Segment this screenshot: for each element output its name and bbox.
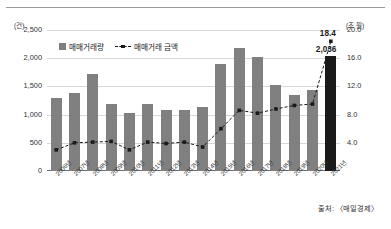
data-label-line-value: 18.4 <box>320 29 336 38</box>
line-marker-2006년 <box>54 148 58 152</box>
legend-swatch-line-icon <box>115 43 131 50</box>
legend: 매매거래량 매매거래 금액 <box>59 41 178 52</box>
left-tick-500: 500 <box>2 139 42 147</box>
line-marker-2009년 <box>109 140 113 144</box>
left-tick-1,500: 1,500 <box>2 82 42 90</box>
line-marker-2017년 <box>256 111 260 115</box>
legend-item-line: 매매거래 금액 <box>115 41 178 52</box>
line-marker-2016년 <box>237 109 241 113</box>
line-marker-2021년 <box>329 39 333 43</box>
legend-item-bar: 매매거래량 <box>59 41 104 52</box>
left-tick-2,500: 2,500 <box>2 26 42 34</box>
data-label-bar-value: 2,036 <box>316 45 337 54</box>
source-note: 출처: 〈매일경제〉 <box>318 203 378 213</box>
line-marker-2019년 <box>292 104 296 108</box>
line-marker-2011년 <box>146 140 150 144</box>
left-tick-2,000: 2,000 <box>2 54 42 62</box>
line-marker-2013년 <box>183 140 187 144</box>
line-marker-2015년 <box>219 127 223 131</box>
line-marker-2010년 <box>128 148 132 152</box>
right-tick-4.0: 4.0 <box>347 139 391 147</box>
legend-label-bar: 매매거래량 <box>69 41 104 52</box>
line-marker-2007년 <box>73 141 77 145</box>
line-marker-2008년 <box>91 140 95 144</box>
line-marker-2020년 <box>311 102 315 106</box>
line-marker-2018년 <box>274 107 278 111</box>
x-axis-tick-labels: 2006년2007년2008년2009년2010년2011년2012년2013년… <box>47 172 340 206</box>
line-marker-2014년 <box>201 145 205 149</box>
line-marker-2012년 <box>164 142 168 146</box>
chart-figure: (건) (조 원) 2,5002,0001,5001,0005000 20.01… <box>0 0 391 229</box>
right-tick-8.0: 8.0 <box>347 111 391 119</box>
legend-label-line: 매매거래 금액 <box>134 41 178 52</box>
top-divider <box>6 7 385 8</box>
right-tick-16.0: 16.0 <box>347 54 391 62</box>
left-tick-1,000: 1,000 <box>2 111 42 119</box>
line-path <box>56 41 331 150</box>
left-tick-0: 0 <box>2 167 42 175</box>
right-tick-20.0: 20.0 <box>347 26 391 34</box>
legend-swatch-bar-icon <box>59 43 66 50</box>
right-tick-12.0: 12.0 <box>347 82 391 90</box>
